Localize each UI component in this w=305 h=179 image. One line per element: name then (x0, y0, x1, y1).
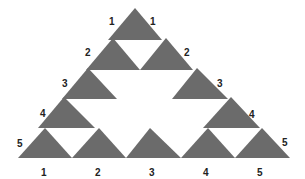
bottom-label: 4 (203, 167, 209, 178)
left-edge-label: 1 (109, 16, 115, 27)
right-edge-label: 1 (150, 16, 156, 27)
left-edge-label: 4 (40, 108, 46, 119)
triangle-group (18, 8, 290, 158)
triangle-row-5 (126, 128, 181, 158)
triangle-row-5 (18, 128, 72, 158)
triangle-row-4 (38, 97, 95, 128)
right-edge-label: 4 (249, 109, 255, 120)
left-edge-label: 3 (62, 78, 68, 89)
right-edge-label: 2 (184, 47, 190, 58)
sierpinski-diagram: 123451234512345 (0, 0, 305, 179)
triangle-row-5 (181, 128, 235, 158)
right-edge-label: 5 (282, 137, 288, 148)
triangle-row-3 (62, 68, 117, 99)
bottom-label: 2 (95, 167, 101, 178)
right-edge-label: 3 (217, 78, 223, 89)
diagram-canvas: 123451234512345 (0, 0, 305, 179)
bottom-label: 1 (41, 167, 47, 178)
bottom-label: 3 (149, 167, 155, 178)
triangle-row-2 (86, 38, 140, 70)
bottom-label: 5 (257, 167, 263, 178)
left-edge-label: 5 (17, 138, 23, 149)
triangle-row-5 (72, 128, 126, 158)
left-edge-label: 2 (85, 47, 91, 58)
